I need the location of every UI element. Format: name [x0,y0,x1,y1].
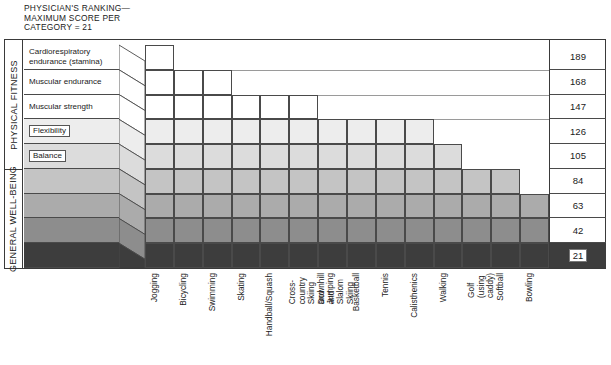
scale-value: 63 [550,194,606,219]
category-row [24,218,119,243]
bar-segment [491,218,520,243]
category-row [24,169,119,194]
bar-segment [462,243,491,268]
bar-segment [260,144,289,169]
bar-segment [462,194,491,219]
category-label: Muscular endurance [24,77,103,86]
bar [434,144,463,268]
activity-label-text: Bowling [525,273,535,302]
bar-segment [376,218,405,243]
bar-segment [203,218,232,243]
activity-label: Golf (using caddy) [457,271,486,365]
activity-label-text: Handball/Squash [265,273,275,336]
bar-segment [318,169,347,194]
activity-label-text: Basketball [352,273,362,311]
bar [174,70,203,268]
bar-segment [145,243,174,268]
bar-segment [405,169,434,194]
bar-segment [203,95,232,120]
bar-segment [520,194,549,219]
bar-segment [434,169,463,194]
bar-segment [174,144,203,169]
scale-value: 189 [550,45,606,70]
bar-segment [232,243,261,268]
activity-label: Bowling [515,271,544,365]
section-label-general-well-being: GENERAL WELL-BEING [5,170,23,268]
bar-segment [260,218,289,243]
section-label-general-well-being-text: GENERAL WELL-BEING [9,166,19,272]
bar-segment [145,95,174,120]
section-label-physical-fitness: PHYSICAL FITNESS [5,40,23,170]
bar-segment [434,218,463,243]
bar-segment [145,194,174,219]
bar-segment [203,70,232,95]
chart-figure: PHYSICIAN'S RANKING— MAXIMUM SCORE PER C… [0,0,611,365]
score-scale-column: 18916814712610584634221 [549,40,606,268]
bar-segment [318,194,347,219]
bar-segment [174,95,203,120]
bar-segment [203,169,232,194]
bar-segment [405,144,434,169]
scale-value: 105 [550,144,606,169]
category-row: Balance [24,144,119,169]
bar-segment [405,243,434,268]
bar [520,194,549,268]
activity-label-text: Walking [439,273,449,302]
bar-segment [174,243,203,268]
bar-segment [203,243,232,268]
bar-segment [289,119,318,144]
bar [318,119,347,268]
bar-segment [491,169,520,194]
activity-label-text: Bicycling [179,273,189,306]
bar [347,119,376,268]
bar [203,70,232,268]
bar-segment [434,243,463,268]
bar [491,169,520,268]
bar-segment [145,70,174,95]
bar-segment [405,194,434,219]
activity-label-text: Skating [237,273,247,301]
activity-label: Basketball [342,271,371,365]
activity-label: Downhill and Slalom Skiing [313,271,342,365]
scale-value: 21 [550,243,606,268]
bar-segment [174,70,203,95]
bar-segment [145,218,174,243]
bar-segment [434,144,463,169]
bar-segment [318,119,347,144]
activity-label: Handball/Squash [255,271,284,365]
bar-segment [260,119,289,144]
category-label: Flexibility [29,125,70,137]
bar-segment [318,243,347,268]
category-row [24,243,119,268]
scale-value: 126 [550,119,606,144]
bar [405,119,434,268]
bar [289,95,318,268]
bar-segment [405,218,434,243]
bar-segment [174,169,203,194]
activity-label-text: Calisthenics [410,273,420,318]
bar-segment [347,194,376,219]
bar-segment [405,119,434,144]
bar [376,119,405,268]
activity-label-text: Softball [496,273,506,301]
bar-segment [174,194,203,219]
bar-segment [376,169,405,194]
bar [145,45,174,268]
bar-segment [376,243,405,268]
bar-segment [145,169,174,194]
bar-segment [520,243,549,268]
bar-segment [376,119,405,144]
bar-segment [232,218,261,243]
activity-label: Calisthenics [400,271,429,365]
bar-segment [289,169,318,194]
scale-value: 147 [550,95,606,120]
bar-segment [260,194,289,219]
category-row: Muscular endurance [24,70,119,95]
bar-segment [347,243,376,268]
activity-label: Bicycling [169,271,198,365]
activity-label-text: Tennis [381,273,391,297]
bar-segment [289,95,318,120]
bar-segment [376,194,405,219]
category-label-column: Cardiorespiratory endurance (stamina)Mus… [24,40,119,268]
bar-segment [289,144,318,169]
